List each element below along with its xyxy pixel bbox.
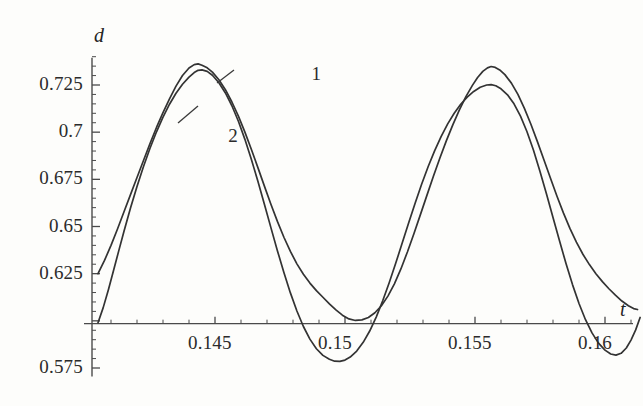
curve-label-1: 1 (311, 63, 321, 85)
x-tick-label: 0.145 (188, 332, 232, 354)
y-tick-label: 0.675 (39, 167, 83, 189)
figure-container: d t 0.1450.150.1550.16 0.5750.6250.650.6… (0, 0, 643, 406)
x-tick-label: 0.15 (318, 332, 352, 354)
data-curve-1 (98, 64, 638, 321)
y-tick-label: 0.725 (39, 73, 83, 95)
y-tick-label: 0.65 (49, 215, 83, 237)
leader-lines-layer (178, 70, 234, 123)
y-tick-label: 0.575 (39, 356, 83, 378)
leader-line-2 (178, 106, 198, 123)
leader-line-1 (217, 70, 234, 83)
y-tick-label: 0.7 (59, 120, 83, 142)
y-tick-label: 0.625 (39, 262, 83, 284)
x-axis-label: t (620, 298, 626, 321)
curves-layer (98, 64, 640, 362)
x-tick-label: 0.155 (448, 332, 492, 354)
curve-label-2: 2 (228, 125, 238, 147)
y-axis-label: d (94, 24, 104, 47)
x-tick-label: 0.16 (578, 332, 612, 354)
